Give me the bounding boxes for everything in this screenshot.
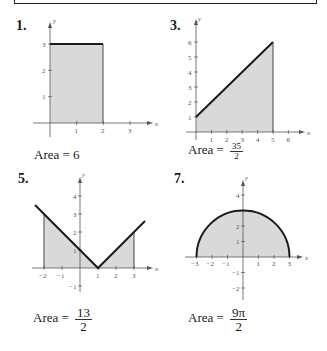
problem-number-5: 5. [18,171,29,187]
svg-text:−2: −2 [207,260,215,268]
graph-1: x y 123 123 [33,17,159,137]
area-label-1: Area = 6 [34,147,80,163]
svg-text:2: 2 [236,223,240,231]
area-label-5: Area = 13 2 [33,306,92,333]
area-fraction: 35 2 [230,142,243,161]
svg-text:2: 2 [42,67,46,75]
x-axis-arrow-icon [299,130,305,134]
svg-text:−1: −1 [69,283,77,291]
problem-number-7: 7. [174,171,185,187]
svg-text:4: 4 [188,69,192,77]
svg-text:−2: −2 [39,272,47,280]
x-axis-arrow-icon [297,255,303,259]
shaded-region [196,42,273,132]
graphs-canvas: x y 123 123 x y 123 456 123 456 [0,0,327,351]
graph-5: x y −2−11 23 −112 34 [32,171,159,292]
svg-text:3: 3 [188,84,192,92]
svg-text:x: x [306,129,311,137]
svg-text:−1: −1 [57,272,65,280]
problem-number-1: 1. [16,18,27,34]
shaded-region [50,44,103,123]
svg-text:x: x [304,254,309,262]
svg-text:1: 1 [188,114,192,122]
svg-text:3: 3 [132,272,136,280]
svg-text:4: 4 [73,193,77,201]
area-value: 6 [73,147,80,162]
svg-text:x: x [154,120,159,128]
svg-text:y: y [197,15,202,23]
svg-text:3: 3 [42,41,46,49]
svg-text:y: y [81,171,86,179]
svg-text:6: 6 [287,136,291,144]
svg-text:2: 2 [101,127,105,135]
svg-text:1: 1 [257,260,261,268]
x-axis-arrow-icon [147,121,153,125]
svg-text:2: 2 [272,260,276,268]
svg-text:2: 2 [73,229,77,237]
svg-text:5: 5 [188,54,192,62]
svg-text:3: 3 [73,211,77,219]
svg-text:4: 4 [256,136,260,144]
svg-text:2: 2 [188,99,192,107]
area-fraction: 9π 2 [230,306,247,333]
svg-text:4: 4 [236,192,240,200]
area-fraction: 13 2 [75,306,92,333]
svg-text:y: y [52,17,57,25]
svg-text:2: 2 [114,272,118,280]
svg-text:−3: −3 [191,260,199,268]
svg-text:−2: −2 [232,285,240,293]
svg-text:1: 1 [75,127,79,135]
area-label-7: Area = 9π 2 [188,306,247,333]
graph-3: x y 123 456 123 456 [186,15,311,144]
problem-number-3: 3. [170,18,181,34]
x-axis-arrow-icon [147,266,153,270]
svg-text:y: y [244,174,249,182]
area-label-3: Area = 35 2 [188,142,243,161]
graph-7: x y −3−2−1 123 −2−1 124 [185,174,309,300]
svg-text:−1: −1 [232,269,240,277]
svg-text:x: x [154,265,159,273]
svg-text:5: 5 [271,136,275,144]
y-axis-arrow-icon [48,22,52,28]
svg-text:1: 1 [236,238,240,246]
svg-text:1: 1 [42,93,46,101]
svg-text:−1: −1 [222,260,230,268]
svg-text:3: 3 [288,260,292,268]
svg-text:3: 3 [128,127,132,135]
svg-text:1: 1 [96,272,100,280]
svg-text:6: 6 [188,39,192,47]
